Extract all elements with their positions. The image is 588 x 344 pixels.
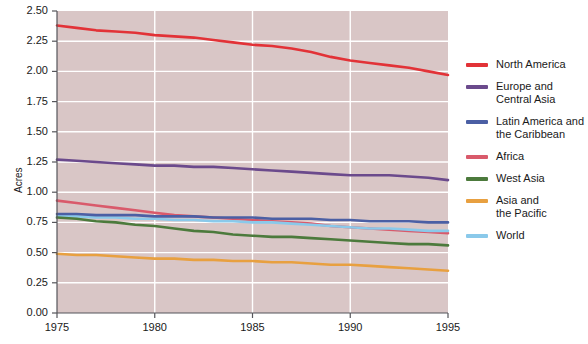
legend-item-label: West Asia xyxy=(496,172,545,185)
chart-legend: North AmericaEurope and Central AsiaLati… xyxy=(466,58,586,251)
legend-item: Europe and Central Asia xyxy=(466,80,586,106)
x-axis-tick-label: 1985 xyxy=(228,321,278,333)
y-axis-title: Acres xyxy=(13,167,24,193)
y-axis-tick-label: 0.75 xyxy=(10,215,48,227)
legend-color-swatch-icon xyxy=(466,234,488,238)
x-axis-tick-label: 1990 xyxy=(325,321,375,333)
legend-color-swatch-icon xyxy=(466,85,488,89)
x-axis-tick-label: 1995 xyxy=(423,321,473,333)
y-axis-tick-label: 2.25 xyxy=(10,34,48,46)
legend-item: Asia and the Pacific xyxy=(466,194,586,220)
y-axis-tick-label: 2.50 xyxy=(10,4,48,16)
legend-item: North America xyxy=(466,58,586,71)
legend-item-label: Africa xyxy=(496,150,524,163)
legend-item-label: Latin America and the Caribbean xyxy=(496,115,584,141)
y-axis-tick-label: 1.75 xyxy=(10,95,48,107)
y-axis-tick-label: 1.50 xyxy=(10,125,48,137)
y-axis-tick-label: 2.00 xyxy=(10,64,48,76)
legend-color-swatch-icon xyxy=(466,120,488,124)
legend-color-swatch-icon xyxy=(466,177,488,181)
y-axis-tick-label: 0.00 xyxy=(10,306,48,318)
legend-item-label: North America xyxy=(496,58,566,71)
legend-color-swatch-icon xyxy=(466,199,488,203)
y-axis-tick-label: 1.25 xyxy=(10,155,48,167)
legend-item: West Asia xyxy=(466,172,586,185)
x-axis-tick-label: 1980 xyxy=(130,321,180,333)
x-axis-tick-label: 1975 xyxy=(32,321,82,333)
legend-item-label: Europe and Central Asia xyxy=(496,80,555,106)
y-axis-tick-label: 0.25 xyxy=(10,276,48,288)
legend-color-swatch-icon xyxy=(466,155,488,159)
legend-color-swatch-icon xyxy=(466,63,488,67)
legend-item: Latin America and the Caribbean xyxy=(466,115,586,141)
legend-item-label: World xyxy=(496,229,525,242)
legend-item: Africa xyxy=(466,150,586,163)
y-axis-tick-label: 0.50 xyxy=(10,246,48,258)
chart-figure: 0.000.250.500.751.001.251.501.752.002.25… xyxy=(0,0,588,344)
legend-item-label: Asia and the Pacific xyxy=(496,194,547,220)
legend-item: World xyxy=(466,229,586,242)
